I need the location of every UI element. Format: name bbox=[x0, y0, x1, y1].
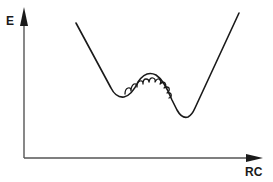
x-axis-label: RC bbox=[245, 165, 263, 179]
x-axis-arrowhead bbox=[246, 154, 263, 162]
y-axis-arrowhead bbox=[20, 7, 28, 26]
energy-curve bbox=[76, 13, 239, 117]
y-axis-label: E bbox=[6, 14, 14, 28]
barrier-fluctuation-wave bbox=[125, 78, 171, 98]
energy-diagram: E RC bbox=[0, 0, 273, 182]
